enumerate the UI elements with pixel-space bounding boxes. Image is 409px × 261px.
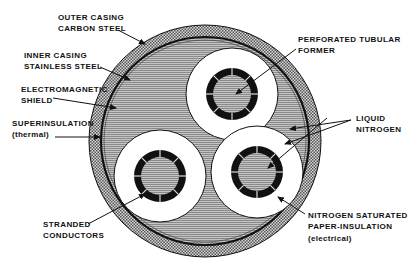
label-outer-casing: OUTER CASING CARBON STEEL [58,13,126,33]
svg-text:(thermal): (thermal) [12,130,49,139]
cable-cross-section-diagram: OUTER CASING CARBON STEEL INNER CASING S… [0,0,409,261]
label-liquid-nitrogen: LIQUID NITROGEN [356,114,401,134]
svg-text:SHIELD: SHIELD [21,96,53,105]
label-electromagnetic-shield: ELECTROMAGNETIC SHIELD [21,85,108,105]
svg-text:NITROGEN SATURATED: NITROGEN SATURATED [308,211,408,220]
label-stranded-conductors: STRANDED CONDUCTORS [43,220,104,240]
svg-text:CONDUCTORS: CONDUCTORS [43,231,104,240]
svg-text:STRANDED: STRANDED [43,220,91,229]
svg-text:PAPER-INSULATION: PAPER-INSULATION [308,222,392,231]
svg-text:STAINLESS STEEL: STAINLESS STEEL [24,62,102,71]
label-paper-insulation: NITROGEN SATURATED PAPER-INSULATION (ele… [308,211,408,243]
label-superinsulation: SUPERINSULATION (thermal) [12,119,94,139]
svg-text:PERFORATED TUBULAR: PERFORATED TUBULAR [298,35,401,44]
svg-text:CARBON STEEL: CARBON STEEL [58,24,126,33]
svg-text:NITROGEN: NITROGEN [356,125,401,134]
svg-text:OUTER CASING: OUTER CASING [58,13,124,22]
svg-text:ELECTROMAGNETIC: ELECTROMAGNETIC [21,85,108,94]
label-perforated-tubular-former: PERFORATED TUBULAR FORMER [298,35,401,55]
svg-text:INNER CASING: INNER CASING [24,51,87,60]
label-inner-casing: INNER CASING STAINLESS STEEL [24,51,102,71]
svg-text:FORMER: FORMER [298,46,335,55]
svg-text:SUPERINSULATION: SUPERINSULATION [12,119,94,128]
svg-text:LIQUID: LIQUID [356,114,386,123]
conductor-bottom-left [114,130,206,222]
svg-text:(electrical): (electrical) [308,234,352,243]
